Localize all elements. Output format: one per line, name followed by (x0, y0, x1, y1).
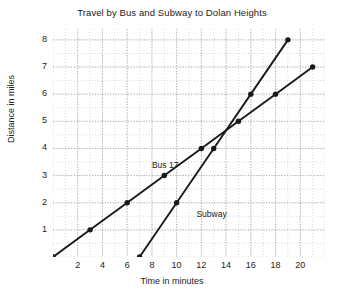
y-tick-label: 3 (21, 170, 47, 180)
x-tick-label: 8 (142, 260, 162, 270)
x-tick-label: 14 (216, 260, 236, 270)
y-tick-label: 5 (21, 115, 47, 125)
data-point (162, 173, 167, 178)
x-tick-label: 16 (241, 260, 261, 270)
data-point (236, 119, 241, 124)
y-tick-label: 4 (21, 142, 47, 152)
x-tick-label: 10 (167, 260, 187, 270)
x-tick-label: 4 (92, 260, 112, 270)
x-tick-label: 18 (266, 260, 286, 270)
chart-container: Travel by Bus and Subway to Dolan Height… (0, 0, 344, 297)
data-point (199, 146, 204, 151)
x-tick-label: 2 (68, 260, 88, 270)
y-tick-label: 1 (21, 224, 47, 234)
series-annotation-bus-17: Bus 17 (152, 160, 178, 170)
y-tick-label: 8 (21, 34, 47, 44)
x-tick-label: 12 (191, 260, 211, 270)
chart-title: Travel by Bus and Subway to Dolan Height… (0, 7, 344, 18)
y-tick-label: 6 (21, 88, 47, 98)
y-tick-label: 7 (21, 61, 47, 71)
data-point (273, 91, 278, 96)
data-point (124, 200, 129, 205)
series-annotation-subway: Subway (196, 209, 226, 219)
y-axis-title: Distance in miles (6, 54, 16, 164)
x-tick-label: 20 (290, 260, 310, 270)
data-point (174, 200, 179, 205)
x-tick-label: 6 (117, 260, 137, 270)
data-point (248, 91, 253, 96)
data-point (310, 64, 315, 69)
x-axis-title: Time in minutes (0, 276, 344, 286)
data-point (87, 227, 92, 232)
plot-svg (53, 29, 325, 257)
data-point (211, 146, 216, 151)
data-point (285, 37, 290, 42)
plot-area: 123456782468101214161820Bus 17Subway (53, 29, 325, 257)
y-tick-label: 2 (21, 197, 47, 207)
